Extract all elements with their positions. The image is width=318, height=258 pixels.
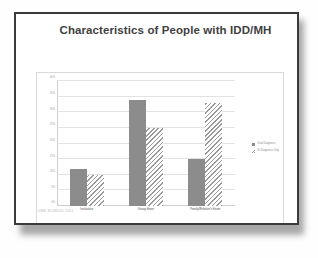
bar-group: Institution: [60, 81, 113, 206]
bar-group: Family/Relative's Home: [179, 81, 232, 206]
chart-container: 0%5%10%15%20%25%30%35%40% InstitutionGro…: [36, 72, 284, 224]
legend-swatch: [252, 150, 255, 153]
y-axis-tick-label: 25%: [50, 124, 55, 127]
y-axis-tick-label: 5%: [51, 186, 55, 189]
y-axis-tick-label: 10%: [50, 171, 55, 174]
bar: [70, 169, 87, 207]
slide-title: Characteristics of People with IDD/MH: [46, 24, 285, 36]
y-axis-tick-label: 0%: [51, 202, 55, 205]
bar: [129, 100, 146, 206]
chart-legend: Dual DiagnosisID Diagnosis Only: [252, 143, 279, 153]
y-axis-tick-label: 40%: [50, 77, 55, 80]
y-axis-tick-label: 35%: [50, 93, 55, 96]
x-axis-category-label: Family/Relative's Home: [190, 209, 220, 212]
legend-item: Dual Diagnosis: [252, 143, 279, 146]
presentation-slide: Characteristics of People with IDD/MH 0%…: [14, 12, 299, 225]
legend-label: Dual Diagnosis: [257, 143, 275, 146]
y-axis-tick-label: 20%: [50, 140, 55, 143]
bar: [188, 159, 205, 206]
bar-groups: InstitutionGroup HomeFamily/Relative's H…: [57, 81, 235, 206]
bar: [205, 103, 222, 206]
bar-group: Group Home: [119, 81, 172, 206]
screenshot-canvas: Characteristics of People with IDD/MH 0%…: [0, 0, 318, 258]
bar: [87, 175, 104, 206]
x-axis-category-label: Group Home: [138, 209, 154, 212]
slide-content-area: Characteristics of People with IDD/MH 0%…: [20, 18, 293, 219]
slide-footer: UMS NCBDDD 2011: [38, 209, 74, 213]
legend-label: ID Diagnosis Only: [257, 150, 279, 153]
chart-plot-area: 0%5%10%15%20%25%30%35%40% InstitutionGro…: [57, 81, 235, 206]
x-axis-category-label: Institution: [80, 209, 93, 212]
y-axis-tick-label: 30%: [50, 108, 55, 111]
bar: [146, 128, 163, 206]
legend-swatch: [252, 143, 255, 146]
y-axis-tick-label: 15%: [50, 155, 55, 158]
legend-item: ID Diagnosis Only: [252, 150, 279, 153]
